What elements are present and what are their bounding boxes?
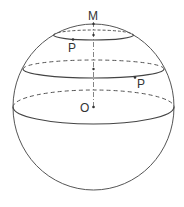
- sphere-diagram: M P P O: [0, 0, 184, 207]
- point-p-middle: [134, 76, 137, 79]
- label-o: O: [80, 101, 89, 115]
- label-p-middle: P: [137, 77, 145, 91]
- label-m: M: [88, 9, 98, 23]
- middle-circle-center: [92, 68, 94, 70]
- pole-point: [92, 23, 94, 25]
- upper-circle-center: [92, 34, 94, 36]
- center-point: [92, 106, 95, 109]
- label-p-upper: P: [68, 41, 76, 55]
